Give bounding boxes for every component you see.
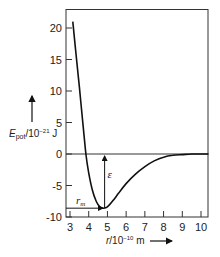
plot-frame xyxy=(66,10,208,218)
y-tick-label: -5 xyxy=(52,180,62,192)
x-axis-ticks: 345678910 xyxy=(67,211,207,233)
y-axis-ticks: 20151050-5-10 xyxy=(46,22,72,223)
y-tick-label: 0 xyxy=(56,148,62,160)
potential-energy-chart: 20151050-5-10 345678910 ε rm Epot/10−21 … xyxy=(0,0,220,257)
epsilon-label: ε xyxy=(108,168,113,180)
x-tick-label: 8 xyxy=(161,221,167,233)
y-tick-label: 5 xyxy=(56,117,62,129)
x-tick-label: 7 xyxy=(142,221,148,233)
y-tick-label: 10 xyxy=(50,85,62,97)
x-tick-label: 4 xyxy=(86,221,92,233)
y-tick-label: 15 xyxy=(50,54,62,66)
rm-label: rm xyxy=(76,194,85,208)
x-axis-label: r/10−10 m xyxy=(106,235,145,246)
x-tick-label: 9 xyxy=(179,221,185,233)
x-tick-label: 10 xyxy=(195,221,207,233)
x-tick-label: 5 xyxy=(104,221,110,233)
x-tick-label: 6 xyxy=(123,221,129,233)
y-tick-label: -10 xyxy=(46,211,62,223)
y-tick-label: 20 xyxy=(50,22,62,34)
x-tick-label: 3 xyxy=(67,221,73,233)
y-axis-label: Epot/10−21 J xyxy=(9,128,57,141)
potential-curve xyxy=(73,22,209,209)
